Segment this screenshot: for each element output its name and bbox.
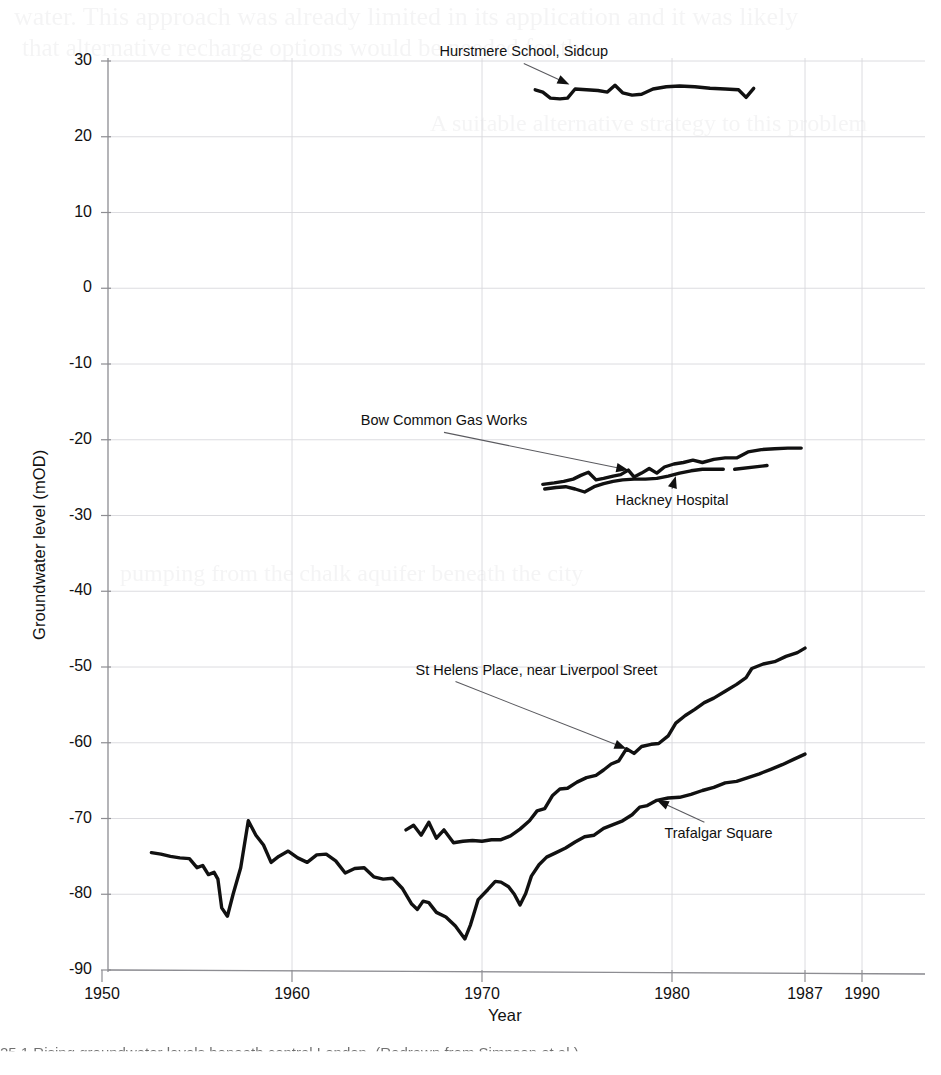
series-annotation-label: Trafalgar Square <box>664 825 772 841</box>
annotation-group: Hurstmere School, SidcupBow Common Gas W… <box>361 43 773 841</box>
y-axis-title: Groundwater level (mOD) <box>30 450 49 640</box>
annotation-arrowhead <box>557 75 570 84</box>
y-tick-label: -20 <box>69 430 92 447</box>
annotation-arrowhead <box>657 800 670 809</box>
y-tick-label: 30 <box>74 51 92 68</box>
x-tick-label: 1980 <box>654 985 690 1002</box>
y-tick-label: 0 <box>83 278 92 295</box>
series-annotation-label: Bow Common Gas Works <box>361 412 528 428</box>
axes-group <box>108 58 925 974</box>
data-series-group <box>151 85 805 939</box>
series-annotation-label: Hurstmere School, Sidcup <box>440 43 608 59</box>
series-annotation-label: St Helens Place, near Liverpool Sreet <box>416 662 658 678</box>
annotation-leader-line <box>444 432 619 468</box>
gridlines-group <box>108 58 925 974</box>
x-axis-line <box>108 970 925 974</box>
y-tick-label: -80 <box>69 884 92 901</box>
series-line-segment <box>735 466 767 470</box>
y-tick-label: -50 <box>69 657 92 674</box>
x-tick-label: 1960 <box>274 985 310 1002</box>
series-line <box>151 754 805 939</box>
figure-caption-text: 25.1 Rising groundwater levels beneath c… <box>0 1044 941 1061</box>
y-tick-label: -40 <box>69 581 92 598</box>
series-line <box>535 85 754 99</box>
series-annotation-label: Hackney Hospital <box>616 492 729 508</box>
y-tick-label: 10 <box>74 203 92 220</box>
y-tick-label: -90 <box>69 960 92 977</box>
x-tick-group: 195019601970198019871990 <box>84 970 880 1002</box>
y-tick-label: -60 <box>69 733 92 750</box>
x-tick-label: 1970 <box>464 985 500 1002</box>
x-tick-label: 1950 <box>84 985 120 1002</box>
x-axis-title: Year <box>488 1006 522 1025</box>
y-tick-label: 20 <box>74 127 92 144</box>
figure-caption: 25.1 Rising groundwater levels beneath c… <box>0 1044 941 1075</box>
y-tick-group: 3020100-10-20-30-40-50-60-70-80-90 <box>69 51 111 977</box>
x-tick-label: 1990 <box>844 985 880 1002</box>
y-tick-label: -30 <box>69 506 92 523</box>
x-tick-label: 1987 <box>787 985 823 1002</box>
annotation-arrowhead <box>614 740 627 749</box>
y-tick-label: -10 <box>69 354 92 371</box>
annotation-leader-line <box>456 682 618 746</box>
groundwater-level-chart: 3020100-10-20-30-40-50-60-70-80-90 19501… <box>0 0 941 1075</box>
annotation-leader-line <box>524 64 561 81</box>
chart-plot-area: 3020100-10-20-30-40-50-60-70-80-90 19501… <box>0 0 941 1010</box>
y-tick-label: -70 <box>69 809 92 826</box>
